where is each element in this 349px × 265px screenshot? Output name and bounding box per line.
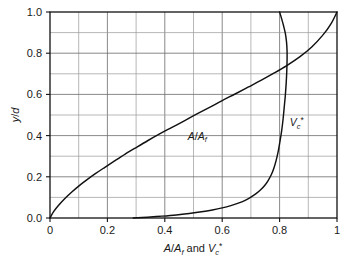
y-tick-label: 0.0 bbox=[27, 212, 42, 224]
x-tick-label: 0.2 bbox=[100, 224, 115, 236]
y-tick-label: 0.6 bbox=[27, 88, 42, 100]
y-tick-label: 1.0 bbox=[27, 6, 42, 18]
chart-plot: 00.20.40.60.81 0.00.20.40.60.81.0 y/d A/… bbox=[0, 0, 349, 265]
x-tick-label: 1 bbox=[334, 224, 340, 236]
y-tick-label: 0.8 bbox=[27, 47, 42, 59]
y-tick-label: 0.2 bbox=[27, 171, 42, 183]
x-tick-label: 0.6 bbox=[215, 224, 230, 236]
x-tick-label: 0 bbox=[47, 224, 53, 236]
x-tick-label: 0.4 bbox=[157, 224, 172, 236]
y-tick-label: 0.4 bbox=[27, 130, 42, 142]
chart-figure: 00.20.40.60.81 0.00.20.40.60.81.0 y/d A/… bbox=[0, 0, 349, 265]
y-axis-title: y/d bbox=[9, 107, 21, 124]
x-tick-label: 0.8 bbox=[272, 224, 287, 236]
